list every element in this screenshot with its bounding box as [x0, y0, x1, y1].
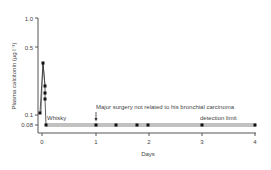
y-tick-label: 1.0: [25, 16, 34, 22]
x-tick-label: 2: [147, 139, 151, 145]
x-axis-label: Days: [141, 151, 155, 157]
x-tick-label: 4: [253, 139, 257, 145]
y-tick-label: 0.1: [25, 112, 34, 118]
arrow-head-icon: [95, 118, 98, 122]
annotation-detection-limit: detection limit: [200, 115, 237, 121]
series-segment: [43, 63, 45, 86]
x-tick-label: 1: [94, 139, 98, 145]
y-axis-label: Plasma calcitonin (µg l⁻¹): [11, 42, 17, 109]
annotation-whisky: Whisky: [47, 115, 66, 121]
x-tick-label: 3: [200, 139, 204, 145]
x-tick-label: 0: [40, 139, 44, 145]
y-tick-label: 0.08: [21, 122, 33, 128]
y-tick-label: 0.5: [25, 45, 34, 51]
annotation-surgery: Major surgery not related to his bronchi…: [96, 104, 235, 110]
calcitonin-chart: 1.0 0.5 0.1 0.08 Plasma calcitonin (µg l…: [0, 0, 271, 170]
